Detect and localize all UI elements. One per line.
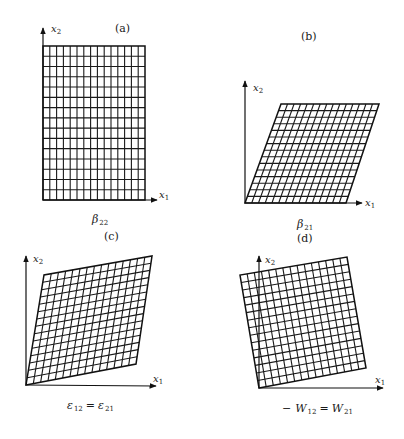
x1-axis-label: x1 xyxy=(153,373,163,386)
panel-d: (d) x2 x1 −W12=W21 xyxy=(240,232,385,416)
x1-axis-label: x1 xyxy=(365,197,375,210)
panel-c: (c) x2 x1 ε12=ε21 xyxy=(26,230,163,413)
panel-caption: β21 xyxy=(296,218,313,232)
x2-axis-label: x2 xyxy=(51,23,61,36)
panel-a: (a) x2 x1 β22 xyxy=(43,22,169,227)
x1-axis-label: x1 xyxy=(159,189,169,202)
panel-label: (a) xyxy=(115,22,130,35)
panel-caption: −W12=W21 xyxy=(282,402,353,416)
deformed-grid xyxy=(241,258,364,386)
x1-axis-arrow xyxy=(26,385,156,386)
panel-caption: ε12=ε21 xyxy=(67,399,114,413)
x2-axis-label: x2 xyxy=(265,254,275,267)
panel-caption: β22 xyxy=(91,213,108,227)
strain-grid-figure: (a) x2 x1 β22 (b) x2 x1 β21 (c) x2 x1 ε1… xyxy=(0,0,404,439)
grid-border xyxy=(43,46,145,200)
x1-axis-label: x1 xyxy=(375,374,385,387)
panel-label: (d) xyxy=(297,232,313,245)
x2-axis-label: x2 xyxy=(253,82,263,95)
x2-axis-label: x2 xyxy=(33,253,43,266)
panel-label: (b) xyxy=(301,30,317,43)
panel-b: (b) x2 x1 β21 xyxy=(245,30,379,232)
panel-label: (c) xyxy=(104,230,119,243)
deformed-grid xyxy=(247,104,376,203)
grid-border xyxy=(245,104,379,203)
deformed-grid xyxy=(43,46,145,200)
